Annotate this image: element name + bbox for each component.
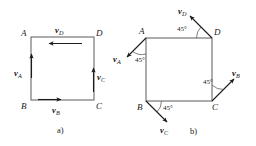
panel-caption-a: a) (57, 125, 64, 135)
panel-a: A B C D vD vA vB vC (14, 25, 106, 135)
angle-arc-d-panel-b (196, 27, 201, 38)
vector-va-label-panel-a: vA (14, 68, 22, 79)
angle-label-c-panel-b: 45° (203, 78, 213, 86)
vector-va-arrow-panel-b (127, 38, 146, 57)
square-abcd-panel-b (146, 38, 212, 101)
vertex-label-b: B (21, 101, 27, 111)
panel-b: A B C D 45° vD 45° vA 45° vB (113, 6, 240, 136)
angle-arc-a-panel-b (133, 52, 147, 55)
vector-vc-label-panel-a: vC (97, 72, 106, 83)
panel-caption-b: b) (190, 126, 197, 136)
vertex-label-d-panel-b: D (213, 27, 221, 37)
angle-label-b-panel-b: 45° (163, 104, 173, 112)
square-abcd-panel-a (31, 37, 94, 100)
velocity-diagram-svg: A B C D vD vA vB vC (0, 0, 256, 146)
angle-label-a-panel-b: 45° (135, 56, 145, 64)
angle-label-d-panel-b: 45° (177, 25, 187, 33)
vector-vb-label-panel-a: vB (52, 105, 60, 116)
vertex-label-a-panel-b: A (138, 26, 145, 36)
vertex-label-a: A (20, 28, 27, 38)
figure-canvas: A B C D vD vA vB vC (0, 0, 256, 146)
vector-vc-arrow-panel-b (212, 79, 234, 101)
vector-va-label-panel-b: vA (113, 54, 121, 65)
vector-vd-label-panel-b: vD (178, 6, 187, 17)
angle-arc-b-panel-b (157, 101, 162, 112)
vertex-label-d: D (95, 28, 103, 38)
angle-arc-c-panel-b (212, 85, 224, 90)
vertex-label-b-panel-b: B (137, 102, 143, 112)
vector-vc-label-panel-b: vB (232, 68, 240, 79)
vector-vd-label-panel-a: vD (55, 25, 64, 36)
vertex-label-c: C (96, 101, 103, 111)
vector-vb-label-panel-b: vC (160, 125, 169, 136)
vertex-label-c-panel-b: C (212, 102, 219, 112)
